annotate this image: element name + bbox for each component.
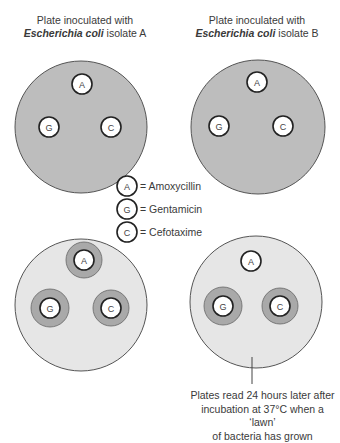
caption-line1: Plates read 24 hours later after — [190, 389, 335, 403]
svg-text:C: C — [277, 302, 284, 312]
inhibition-zone-amoxycillin: A — [66, 242, 102, 278]
svg-text:G: G — [219, 302, 226, 312]
plate-b-before: A G C — [191, 60, 325, 194]
svg-text:G: G — [123, 205, 130, 215]
inhibition-zone-gentamicin: G — [204, 287, 242, 325]
svg-text:A: A — [254, 78, 260, 88]
svg-text:C: C — [124, 228, 131, 238]
caption-line2: incubation at 37°C when a ‘lawn’ — [190, 403, 335, 430]
svg-text:C: C — [108, 123, 115, 133]
svg-text:C: C — [280, 122, 287, 132]
disc-cefotaxime: C — [101, 117, 121, 137]
caption-line3: of bacteria has grown — [190, 430, 335, 443]
plate-b-after: A G C — [190, 236, 322, 368]
disc-gentamicin: G — [39, 117, 59, 137]
legend-cefotaxime: = Cefotaxime — [140, 226, 202, 238]
legend-disc-c: C — [117, 222, 137, 242]
svg-text:A: A — [248, 257, 254, 267]
svg-text:A: A — [79, 80, 85, 90]
legend-disc-a: A — [117, 176, 137, 196]
svg-text:G: G — [215, 122, 222, 132]
inhibition-zone-cefotaxime: C — [93, 290, 129, 326]
svg-text:C: C — [108, 304, 115, 314]
disc-amoxycillin: A — [72, 74, 92, 94]
legend-amoxycillin: = Amoxycillin — [140, 180, 201, 192]
disc-amoxycillin-no-zone: A — [241, 251, 261, 271]
legend-symbols: A G C — [117, 176, 137, 242]
disc-cefotaxime: C — [273, 116, 293, 136]
legend-gentamicin: = Gentamicin — [140, 203, 202, 215]
disc-amoxycillin: A — [247, 72, 267, 92]
plate-a-after: A G C — [15, 239, 147, 371]
legend-disc-g: G — [117, 199, 137, 219]
inhibition-zone-cefotaxime: C — [262, 288, 298, 324]
inhibition-zone-gentamicin: G — [31, 289, 69, 327]
plate-a-before: A G C — [15, 61, 147, 193]
svg-text:G: G — [46, 304, 53, 314]
disc-gentamicin: G — [209, 116, 229, 136]
incubation-caption: Plates read 24 hours later after incubat… — [190, 389, 335, 443]
svg-text:A: A — [124, 182, 130, 192]
svg-text:A: A — [81, 256, 87, 266]
svg-text:G: G — [45, 123, 52, 133]
